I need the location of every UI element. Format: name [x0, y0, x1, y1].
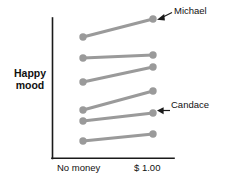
annotation-label-michael: Michael: [174, 6, 207, 17]
series-line-michael: [79, 15, 156, 40]
data-point: [79, 106, 86, 113]
data-point: [79, 117, 86, 124]
series-line-6: [79, 130, 156, 144]
series-line-candace: [79, 109, 156, 124]
x-axis-tick-label-no-money: No money: [57, 163, 100, 174]
data-point: [79, 33, 86, 40]
annotation-label-candace: Candace: [171, 100, 209, 111]
x-axis-tick-label-one-dollar: $ 1.00: [134, 163, 160, 174]
data-point: [79, 78, 86, 85]
chart-plot-area: [0, 0, 226, 187]
series-line-2: [79, 51, 156, 61]
data-point: [149, 63, 156, 70]
series-line-3: [79, 63, 156, 85]
data-point-candace: [149, 109, 156, 116]
data-point: [149, 51, 156, 58]
data-point: [149, 130, 156, 137]
data-point: [79, 54, 86, 61]
series-line-4: [79, 87, 156, 113]
annotation-arrow-michael: [157, 13, 172, 21]
data-point: [79, 137, 86, 144]
chart-figure: Happy mood No money $ 1.00 Michael Canda…: [0, 0, 226, 187]
annotation-arrow-candace: [157, 107, 170, 114]
data-point: [149, 87, 156, 94]
data-point-michael: [149, 15, 156, 22]
y-axis-title: Happy mood: [8, 68, 52, 92]
